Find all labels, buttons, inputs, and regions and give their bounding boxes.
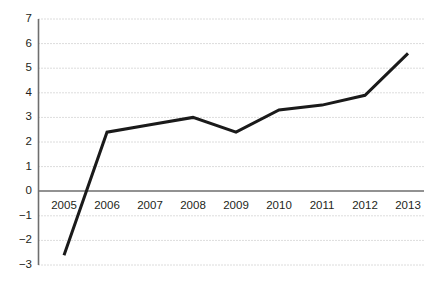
x-axis-tick-label: 2012 (344, 200, 386, 212)
line-chart: 76543210−1−2−3 2005200620072008200920102… (0, 0, 436, 284)
x-axis-tick-label: 2005 (43, 200, 85, 212)
x-axis-tick-label: 2010 (258, 200, 300, 212)
y-axis-tick-label: −2 (6, 234, 32, 246)
y-axis-tick-label: 3 (6, 111, 32, 123)
y-axis-tick-label: −3 (6, 259, 32, 271)
y-axis-tick-label: 1 (6, 161, 32, 173)
chart-plot-area (0, 0, 436, 284)
gridlines-group (39, 19, 425, 265)
x-axis-tick-label: 2011 (301, 200, 343, 212)
x-axis-tick-label: 2009 (215, 200, 257, 212)
y-axis-tick-label: 5 (6, 62, 32, 74)
y-axis-tick-label: 2 (6, 136, 32, 148)
data-line-series-1 (64, 53, 408, 255)
data-series-group (64, 53, 408, 255)
x-axis-tick-label: 2007 (129, 200, 171, 212)
y-axis-tick-label: 0 (6, 185, 32, 197)
x-axis-tick-label: 2008 (172, 200, 214, 212)
x-axis-tick-label: 2013 (387, 200, 429, 212)
y-axis-tick-label: −1 (6, 210, 32, 222)
y-axis-tick-label: 6 (6, 38, 32, 50)
x-axis-tick-label: 2006 (86, 200, 128, 212)
y-axis-tick-label: 4 (6, 87, 32, 99)
y-axis-tick-label: 7 (6, 13, 32, 25)
